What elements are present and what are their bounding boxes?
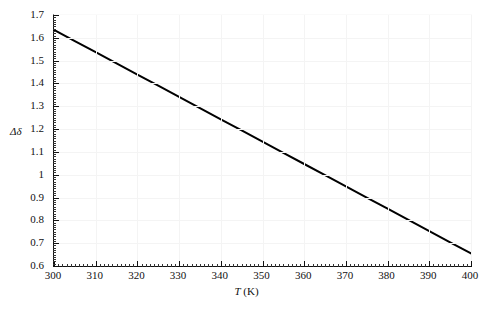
- x-axis-minor-tick: [417, 264, 418, 267]
- x-axis-minor-tick: [433, 264, 434, 267]
- gridline-horizontal: [54, 61, 471, 62]
- x-axis-minor-tick: [379, 264, 380, 267]
- y-axis-tick-label: 0.8: [0, 213, 44, 225]
- y-axis-minor-tick: [53, 150, 56, 151]
- x-axis-tick-label: 330: [170, 269, 187, 281]
- x-axis-tick: [221, 261, 222, 267]
- y-axis-minor-tick: [53, 127, 56, 128]
- y-axis-minor-tick: [53, 193, 56, 194]
- gridline-vertical: [304, 15, 305, 266]
- y-axis-minor-tick: [53, 63, 56, 64]
- y-axis-minor-tick: [53, 93, 56, 94]
- y-axis-minor-tick: [53, 216, 56, 217]
- y-axis-minor-tick: [53, 236, 56, 237]
- x-axis-minor-tick: [329, 264, 330, 267]
- y-axis-minor-tick: [53, 113, 56, 114]
- x-axis-tick: [263, 261, 264, 267]
- x-axis-tick: [471, 261, 472, 267]
- y-axis-tick-label: 1.6: [0, 31, 44, 43]
- x-axis-minor-tick: [308, 264, 309, 267]
- gridline-vertical: [221, 15, 222, 266]
- x-axis-minor-tick: [162, 264, 163, 267]
- x-axis-minor-tick: [463, 264, 464, 267]
- plot-area: [53, 14, 472, 267]
- x-axis-minor-tick: [283, 264, 284, 267]
- y-axis-minor-tick: [53, 177, 56, 178]
- y-axis-minor-tick: [53, 24, 56, 25]
- y-axis-tick: [53, 243, 59, 244]
- x-axis-minor-tick: [396, 264, 397, 267]
- y-axis-tick: [53, 220, 59, 221]
- y-axis-minor-tick: [53, 42, 56, 43]
- y-axis-minor-tick: [53, 168, 56, 169]
- y-axis-minor-tick: [53, 172, 56, 173]
- y-axis-minor-tick: [53, 74, 56, 75]
- x-axis-tick: [96, 261, 97, 267]
- x-axis-tick: [304, 261, 305, 267]
- y-axis-minor-tick: [53, 67, 56, 68]
- y-axis-minor-tick: [53, 29, 56, 30]
- y-axis-tick: [53, 83, 59, 84]
- gridline-horizontal: [54, 152, 471, 153]
- x-axis-minor-tick: [292, 264, 293, 267]
- y-axis-tick-label: 1: [0, 168, 44, 180]
- x-axis-tick-label: 370: [337, 269, 354, 281]
- gridline-vertical: [471, 15, 472, 266]
- y-axis-minor-tick: [53, 209, 56, 210]
- y-axis-minor-tick: [53, 188, 56, 189]
- y-axis-minor-tick: [53, 252, 56, 253]
- y-axis-tick: [53, 106, 59, 107]
- y-axis-minor-tick: [53, 22, 56, 23]
- x-axis-minor-tick: [450, 264, 451, 267]
- x-axis-minor-tick: [467, 264, 468, 267]
- gridline-vertical: [263, 15, 264, 266]
- y-axis-minor-tick: [53, 52, 56, 53]
- y-axis-minor-tick: [53, 159, 56, 160]
- y-axis-minor-tick: [53, 232, 56, 233]
- x-axis-minor-tick: [250, 264, 251, 267]
- y-axis-minor-tick: [53, 257, 56, 258]
- y-axis-minor-tick: [53, 211, 56, 212]
- x-axis-tick: [179, 261, 180, 267]
- x-axis-minor-tick: [200, 264, 201, 267]
- x-axis-minor-tick: [121, 264, 122, 267]
- x-axis-minor-tick: [71, 264, 72, 267]
- x-axis-minor-tick: [392, 264, 393, 267]
- gridline-vertical: [96, 15, 97, 266]
- y-axis-tick-label: 1.3: [0, 99, 44, 111]
- x-axis-title-unit: (K): [241, 285, 259, 297]
- y-axis-minor-tick: [53, 227, 56, 228]
- x-axis-minor-tick: [371, 264, 372, 267]
- x-axis-minor-tick: [167, 264, 168, 267]
- x-axis-minor-tick: [233, 264, 234, 267]
- y-axis-minor-tick: [53, 65, 56, 66]
- y-axis-minor-tick: [53, 156, 56, 157]
- x-axis-minor-tick: [229, 264, 230, 267]
- x-axis-minor-tick: [62, 264, 63, 267]
- x-axis-minor-tick: [350, 264, 351, 267]
- y-axis-minor-tick: [53, 36, 56, 37]
- x-axis-minor-tick: [321, 264, 322, 267]
- x-axis-minor-tick: [83, 264, 84, 267]
- x-axis-minor-tick: [408, 264, 409, 267]
- x-axis-tick: [346, 261, 347, 267]
- y-axis-minor-tick: [53, 111, 56, 112]
- x-axis-minor-tick: [442, 264, 443, 267]
- gridline-horizontal: [54, 83, 471, 84]
- x-axis-minor-tick: [421, 264, 422, 267]
- y-axis-minor-tick: [53, 166, 56, 167]
- y-axis-tick-label: 1.7: [0, 8, 44, 20]
- y-axis-minor-tick: [53, 125, 56, 126]
- y-axis-minor-tick: [53, 56, 56, 57]
- y-axis-minor-tick: [53, 86, 56, 87]
- x-axis-minor-tick: [100, 264, 101, 267]
- y-axis-minor-tick: [53, 207, 56, 208]
- x-axis-minor-tick: [225, 264, 226, 267]
- x-axis-minor-tick: [317, 264, 318, 267]
- y-axis-minor-tick: [53, 134, 56, 135]
- y-axis-minor-tick: [53, 31, 56, 32]
- x-axis-minor-tick: [258, 264, 259, 267]
- y-axis-minor-tick: [53, 241, 56, 242]
- x-axis-minor-tick: [246, 264, 247, 267]
- y-axis-minor-tick: [53, 122, 56, 123]
